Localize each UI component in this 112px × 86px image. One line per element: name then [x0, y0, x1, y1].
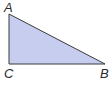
- right-triangle-abc: [9, 14, 105, 64]
- vertex-label-c: C: [4, 66, 14, 81]
- vertex-label-a: A: [3, 0, 13, 15]
- triangle-diagram: A B C: [0, 0, 112, 86]
- vertex-label-b: B: [100, 66, 109, 81]
